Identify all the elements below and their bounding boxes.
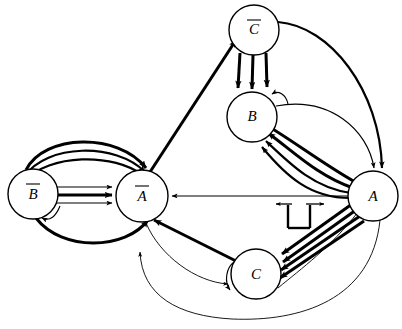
edge-cbar-b-3 — [266, 53, 267, 87]
node-a-bar[interactable]: A — [116, 170, 168, 222]
edge-b-incoming-curl — [272, 92, 288, 104]
edge-a-b-2 — [268, 133, 353, 188]
graph-canvas: C B A B A C — [0, 0, 402, 329]
node-a-bar-label: A — [136, 188, 147, 204]
edge-cbar-b-1 — [238, 53, 240, 88]
diagram-root: C B A B A C — [0, 0, 402, 329]
node-a[interactable]: A — [348, 171, 398, 221]
node-b-bar[interactable]: B — [8, 169, 58, 219]
node-c-label: C — [251, 266, 262, 282]
edge-a-c-4 — [280, 221, 364, 278]
edge-b-to-a — [276, 104, 374, 168]
edge-abar-to-cbar — [150, 40, 236, 172]
node-c[interactable]: C — [231, 249, 281, 299]
node-a-label: A — [367, 188, 378, 204]
edge-cbar-b-2 — [252, 55, 253, 89]
edge-a-c-2 — [283, 210, 356, 262]
edge-abar-to-c — [146, 223, 228, 284]
edge-bbar-abar-arc4 — [36, 218, 148, 243]
node-c-bar-label: C — [249, 21, 260, 37]
node-c-bar[interactable]: C — [229, 5, 279, 55]
edge-c-to-abar — [154, 220, 238, 262]
node-b-bar-label: B — [28, 186, 37, 202]
t-bar-inhibition-symbol — [276, 204, 324, 228]
node-b[interactable]: B — [227, 92, 277, 142]
node-b-label: B — [247, 108, 256, 124]
